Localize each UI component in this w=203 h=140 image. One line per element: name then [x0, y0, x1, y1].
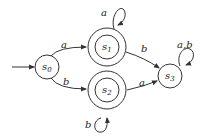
- transition-s2-s3-label: a: [139, 77, 145, 88]
- state-s0: s0: [35, 55, 59, 79]
- transition-s0-s1: [51, 47, 86, 56]
- transition-s0-s2-label: b: [63, 76, 69, 87]
- automaton-diagram: s0 s1 s2 s3 a b a b a b a,b: [0, 0, 203, 140]
- state-s1: s1: [88, 28, 126, 66]
- transition-s1-s3: [126, 52, 159, 68]
- state-s0-label: s0: [42, 61, 52, 74]
- state-s1-label: s1: [102, 41, 112, 54]
- state-s2-label: s2: [102, 84, 112, 97]
- transition-s2-s2-label: b: [85, 119, 91, 130]
- state-s3-label: s3: [165, 70, 175, 83]
- transition-s3-s3-label: a,b: [177, 39, 193, 50]
- transition-s3-s3: [179, 48, 194, 66]
- state-s2: s2: [88, 71, 126, 109]
- transition-s1-s1: [113, 8, 125, 29]
- transition-s1-s1-label: a: [101, 7, 107, 18]
- transition-s2-s2: [95, 118, 107, 132]
- state-s3: s3: [158, 64, 182, 88]
- transition-s0-s1-label: a: [61, 39, 67, 50]
- transition-s1-s3-label: b: [141, 43, 147, 54]
